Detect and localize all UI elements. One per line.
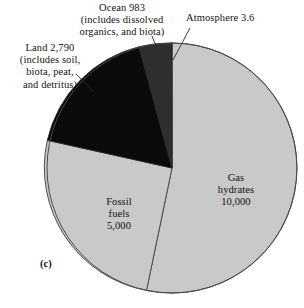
slice-label-gas-hydrates: Gas hydrates 10,000 bbox=[196, 172, 276, 209]
slice-label-fossil-fuels-line1: Fossil bbox=[84, 196, 154, 208]
slice-label-land-line1: Land 2,790 bbox=[4, 42, 96, 54]
slice-label-land: Land 2,790 (includes soil, biota, peat, … bbox=[4, 42, 96, 91]
slice-label-gas-hydrates-line3: 10,000 bbox=[196, 196, 276, 208]
slice-label-fossil-fuels: Fossil fuels 5,000 bbox=[84, 196, 154, 233]
figure-caption: (c) bbox=[32, 258, 60, 270]
pie-chart-figure: Ocean 983 (includes dissolved organics, … bbox=[0, 0, 304, 308]
slice-label-ocean-line2: (includes dissolved bbox=[60, 14, 184, 26]
slice-label-ocean-line1: Ocean 983 bbox=[60, 2, 184, 14]
slice-label-land-line2: (includes soil, bbox=[4, 54, 96, 66]
slice-label-land-line3: biota, peat, bbox=[4, 66, 96, 78]
slice-label-gas-hydrates-line2: hydrates bbox=[196, 184, 276, 196]
slice-label-ocean: Ocean 983 (includes dissolved organics, … bbox=[60, 2, 184, 39]
slice-label-land-line4: and detritus) bbox=[4, 79, 96, 91]
slice-label-gas-hydrates-line1: Gas bbox=[196, 172, 276, 184]
slice-label-atmosphere: Atmosphere 3.6 bbox=[186, 12, 298, 24]
slice-label-fossil-fuels-line3: 5,000 bbox=[84, 220, 154, 232]
slice-label-atmosphere-line1: Atmosphere 3.6 bbox=[186, 12, 298, 24]
slice-label-fossil-fuels-line2: fuels bbox=[84, 208, 154, 220]
slice-label-ocean-line3: organics, and biota) bbox=[60, 26, 184, 38]
